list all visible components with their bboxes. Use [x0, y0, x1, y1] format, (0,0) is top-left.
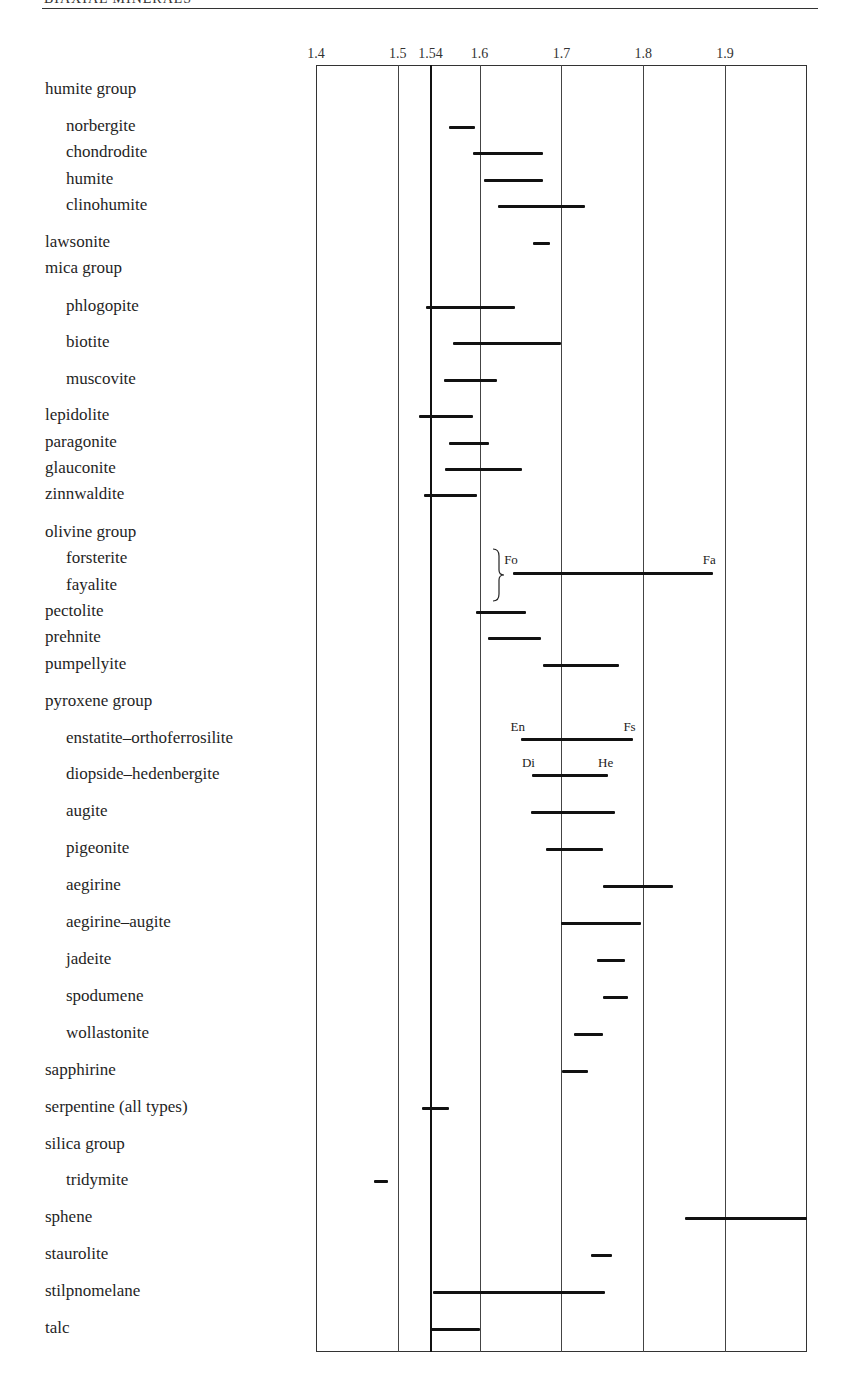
mineral-label: pumpellyite: [45, 654, 126, 674]
mineral-label: lepidolite: [45, 405, 109, 425]
range-bar: [424, 494, 477, 497]
range-bar: [476, 611, 526, 614]
mineral-label: phlogopite: [66, 296, 139, 316]
mineral-label: chondrodite: [66, 142, 147, 162]
mineral-label: serpentine (all types): [45, 1097, 188, 1117]
range-bar: [453, 342, 560, 345]
gridline: [480, 65, 481, 1352]
mineral-label: muscovite: [66, 369, 136, 389]
mineral-label: staurolite: [45, 1244, 108, 1264]
x-tick-label: 1.54: [418, 46, 443, 62]
mineral-label: forsterite: [66, 548, 127, 568]
mineral-label: lawsonite: [45, 232, 110, 252]
mineral-label: sphene: [45, 1207, 92, 1227]
range-bar: [546, 848, 603, 851]
range-bar: [533, 242, 550, 245]
gridline: [643, 65, 644, 1352]
header-rule: [42, 8, 818, 9]
gridline: [561, 65, 562, 1352]
reference-line-1-54: [430, 65, 433, 1352]
mineral-label: enstatite–orthoferrosilite: [66, 728, 233, 748]
x-tick-label: 1.5: [389, 46, 407, 62]
mineral-label: spodumene: [66, 986, 143, 1006]
end-member-label: He: [598, 756, 613, 770]
mineral-label: zinnwaldite: [45, 484, 124, 504]
gridline: [398, 65, 399, 1352]
range-bar: [445, 468, 522, 471]
gridline: [725, 65, 726, 1352]
x-tick-label: 1.7: [553, 46, 571, 62]
mineral-label: fayalite: [66, 575, 117, 595]
range-bar: [603, 996, 628, 999]
range-bar: [449, 442, 490, 445]
mineral-label: wollastonite: [66, 1023, 149, 1043]
range-bar: [488, 637, 541, 640]
mineral-label: paragonite: [45, 432, 117, 452]
mineral-label: stilpnomelane: [45, 1281, 140, 1301]
range-bar: [591, 1254, 612, 1257]
range-bar: [521, 738, 634, 741]
mineral-label: olivine group: [45, 522, 136, 542]
olivine-series-bar: [513, 572, 713, 575]
mineral-label: diopside–hedenbergite: [66, 764, 220, 784]
range-bar: [685, 1217, 807, 1220]
range-bar: [603, 885, 673, 888]
range-bar: [433, 1291, 605, 1294]
range-bar: [484, 179, 544, 182]
mineral-label: humite group: [45, 79, 136, 99]
range-bar: [426, 306, 515, 309]
range-bar: [532, 774, 608, 777]
mineral-label: aegirine: [66, 875, 121, 895]
mineral-label: norbergite: [66, 116, 136, 136]
mineral-label: prehnite: [45, 627, 101, 647]
x-tick-label: 1.8: [634, 46, 652, 62]
mineral-label: pectolite: [45, 601, 104, 621]
mineral-label: pigeonite: [66, 838, 129, 858]
mineral-label: aegirine–augite: [66, 912, 171, 932]
x-tick-label: 1.9: [716, 46, 734, 62]
mineral-label: mica group: [45, 258, 122, 278]
range-bar: [543, 664, 619, 667]
range-bar: [597, 959, 626, 962]
range-bar: [374, 1180, 388, 1183]
mineral-label: augite: [66, 801, 108, 821]
range-bar: [498, 205, 585, 208]
range-bar: [422, 1107, 449, 1110]
end-member-label-fa: Fa: [703, 553, 716, 567]
mineral-label: sapphirine: [45, 1060, 116, 1080]
mineral-label: silica group: [45, 1134, 125, 1154]
end-member-label: Fs: [623, 720, 635, 734]
end-member-label: En: [511, 720, 525, 734]
end-member-label-fo: Fo: [504, 553, 518, 567]
mineral-label: biotite: [66, 332, 109, 352]
range-bar: [561, 922, 640, 925]
range-bar: [562, 1070, 587, 1073]
mineral-label: humite: [66, 169, 113, 189]
olivine-brace-icon: [491, 548, 505, 602]
range-bar: [531, 811, 615, 814]
mineral-label: clinohumite: [66, 195, 147, 215]
range-bar: [473, 152, 543, 155]
mineral-label: tridymite: [66, 1170, 128, 1190]
x-tick-label: 1.6: [471, 46, 489, 62]
range-bar: [444, 379, 497, 382]
end-member-label: Di: [522, 756, 535, 770]
range-bar: [574, 1033, 603, 1036]
mineral-label: jadeite: [66, 949, 111, 969]
range-bar: [419, 415, 473, 418]
x-tick-label: 1.4: [307, 46, 325, 62]
mineral-label: talc: [45, 1318, 70, 1338]
header-title: BIAXIAL MINERALS: [44, 0, 192, 7]
mineral-label: pyroxene group: [45, 691, 152, 711]
mineral-label: glauconite: [45, 458, 116, 478]
range-bar: [431, 1328, 480, 1331]
range-bar: [449, 126, 474, 129]
